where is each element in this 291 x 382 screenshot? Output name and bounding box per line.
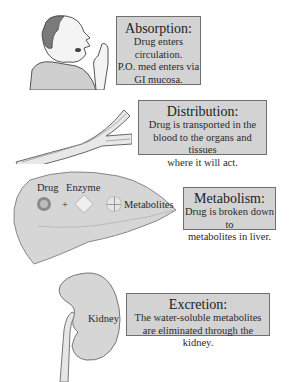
drug-ring-icon	[37, 197, 51, 211]
kidney-label: Kidney	[88, 313, 119, 324]
distribution-line: blood to the organs and tissues	[139, 132, 266, 157]
absorption-line: GI mucosa.	[117, 74, 200, 87]
absorption-line: Drug enters	[117, 36, 200, 49]
excretion-line: The water-soluble metabolites	[127, 312, 269, 325]
man-taking-pill-icon	[18, 8, 110, 90]
distribution-line: Drug is transported in the	[139, 119, 266, 132]
absorption-line: P.O. med enters via	[117, 61, 200, 74]
metabolites-label: Metabolites	[124, 199, 174, 210]
absorption-title: Absorption:	[117, 21, 200, 36]
excretion-title: Excretion:	[127, 297, 269, 312]
blood-vessel-icon	[12, 104, 132, 164]
enzyme-label: Enzyme	[66, 182, 100, 193]
drug-label: Drug	[37, 182, 59, 193]
distribution-title: Distribution:	[139, 104, 266, 119]
liver-icon	[8, 166, 178, 266]
plus-sign: +	[62, 199, 68, 210]
excretion-box: Excretion: The water-soluble metabolites…	[126, 293, 270, 336]
metabolism-line: Drug is broken down to	[184, 206, 275, 231]
distribution-box: Distribution: Drug is transported in the…	[138, 100, 267, 155]
absorption-line: circulation.	[117, 49, 200, 62]
metabolism-line: metabolites in liver.	[184, 231, 275, 244]
metabolism-title: Metabolism:	[184, 191, 275, 206]
metabolites-icon	[106, 196, 122, 212]
metabolism-box: Metabolism: Drug is broken down to metab…	[183, 187, 276, 230]
kidney-icon	[46, 270, 122, 382]
excretion-line: are eliminated through the kidney.	[127, 325, 269, 350]
absorption-box: Absorption: Drug enters circulation. P.O…	[116, 16, 201, 85]
